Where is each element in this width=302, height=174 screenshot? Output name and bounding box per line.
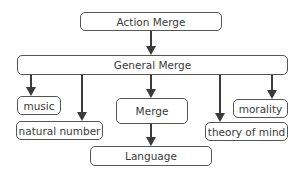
node-action-merge: Action Merge bbox=[80, 12, 222, 31]
node-music: music bbox=[17, 96, 61, 115]
node-language: Language bbox=[90, 146, 212, 166]
node-theory-of-mind: theory of mind bbox=[205, 122, 288, 141]
node-morality: morality bbox=[233, 99, 288, 118]
node-natural-number: natural number bbox=[16, 121, 103, 140]
node-general-merge: General Merge bbox=[17, 55, 288, 75]
node-merge: Merge bbox=[116, 98, 188, 124]
